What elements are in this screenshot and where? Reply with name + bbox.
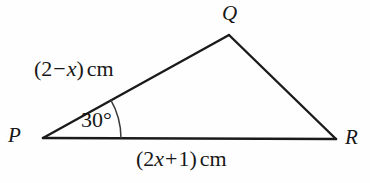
side-pr-open: (2: [136, 146, 154, 171]
side-pq-operator: −: [52, 56, 66, 81]
side-pq-unit: cm: [84, 56, 114, 81]
side-pr-close: ): [190, 146, 197, 171]
vertex-label-q: Q: [222, 3, 237, 24]
vertex-label-r: R: [345, 127, 358, 148]
triangle-diagram: P Q R (2−x)cm (2x+1)cm 30°: [0, 0, 370, 183]
side-pq-line: [43, 35, 229, 138]
side-pr-variable: x: [154, 146, 164, 171]
side-pr-line: [43, 138, 336, 139]
side-pq-open: (2: [34, 56, 52, 81]
side-pq-close: ): [77, 56, 84, 81]
vertex-label-p: P: [8, 125, 21, 146]
side-pq-variable: x: [67, 56, 77, 81]
side-qr-line: [229, 35, 336, 139]
angle-label-at-p: 30°: [81, 109, 112, 131]
side-pr-constant: 1: [179, 146, 190, 171]
angle-arc-at-p: [111, 99, 122, 138]
side-label-pr: (2x+1)cm: [136, 148, 227, 170]
side-label-pq: (2−x)cm: [34, 58, 114, 80]
side-pr-operator: +: [164, 146, 178, 171]
side-pr-unit: cm: [197, 146, 227, 171]
